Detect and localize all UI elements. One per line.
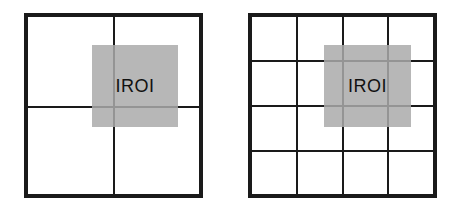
roi-region: IROI xyxy=(92,45,178,127)
roi-label: IROI xyxy=(348,76,387,97)
roi-region: IROI xyxy=(324,45,411,127)
roi-label: IROI xyxy=(115,76,154,97)
grid-line-horizontal xyxy=(252,150,433,152)
